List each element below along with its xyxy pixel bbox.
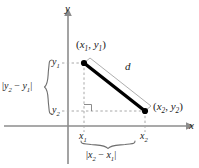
segment-line bbox=[84, 63, 145, 111]
horizontal-brace-path bbox=[81, 141, 135, 149]
point-2-label: (x2, y2) bbox=[153, 101, 183, 115]
segment-highlight bbox=[84, 58, 151, 111]
horizontal-brace-label: |x2 − x1| bbox=[86, 150, 116, 163]
tick-label-x2: x2 bbox=[140, 131, 148, 144]
tick-label-y2: y2 bbox=[52, 105, 60, 118]
point-1-dot bbox=[81, 60, 87, 66]
tick-label-y1: y1 bbox=[52, 57, 60, 70]
point-2-label-close: ) bbox=[179, 100, 183, 112]
vertical-brace-path bbox=[45, 60, 53, 114]
point-2-dot bbox=[142, 108, 148, 114]
horizontal-brace-minus: − bbox=[96, 149, 107, 160]
distance-label: d bbox=[125, 61, 131, 72]
vertical-brace-bar-close: | bbox=[30, 80, 32, 91]
vertical-brace-minus: − bbox=[12, 80, 23, 91]
tick-label-x1-sub: 1 bbox=[83, 136, 86, 143]
distance-formula-figure: (x1, y1) (x2, y2) y x d y1 y2 x1 x2 |y2 … bbox=[0, 0, 199, 168]
tick-label-y1-sub: 1 bbox=[56, 62, 59, 69]
point-1-label: (x1, y1) bbox=[76, 39, 106, 53]
x-axis-label: x bbox=[189, 120, 194, 131]
horizontal-brace-bar-close: | bbox=[114, 149, 116, 160]
point-1-label-close: ) bbox=[102, 38, 106, 50]
y-axis-label: y bbox=[65, 3, 70, 14]
tick-label-x1: x1 bbox=[79, 131, 87, 144]
axes-group bbox=[4, 8, 194, 164]
tick-label-x2-sub: 2 bbox=[144, 136, 147, 143]
right-angle-marker bbox=[84, 105, 92, 112]
vertical-brace-label: |y2 − y1| bbox=[2, 81, 32, 94]
tick-label-y2-sub: 2 bbox=[56, 110, 59, 117]
